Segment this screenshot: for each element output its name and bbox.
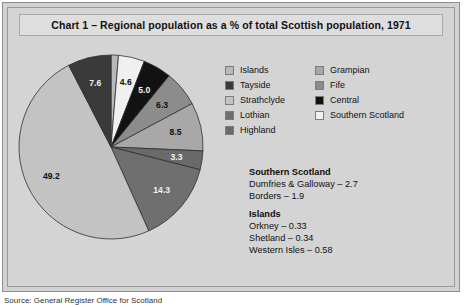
chart-screenshot: Chart 1 – Regional population as a % of … (0, 0, 464, 306)
pie-chart-svg: 1.34.65.06.38.53.314.349.27.6 (17, 49, 213, 245)
legend-item-central[interactable]: Central (315, 95, 449, 105)
pie-slice-value-label: 8.5 (170, 127, 182, 137)
legend-item-fife[interactable]: Fife (315, 80, 449, 90)
note-line: Borders – 1.9 (249, 190, 449, 202)
pie-slice-group (19, 55, 203, 239)
legend-item-strathclyde[interactable]: Strathclyde (225, 95, 311, 105)
pie-slice-value-label: 7.6 (89, 78, 101, 88)
pie-slice-value-label: 4.6 (120, 77, 132, 87)
legend-swatch-icon (315, 111, 324, 120)
note-line: Dumfries & Galloway – 2.7 (249, 178, 449, 190)
note-line: Western Isles – 0.58 (249, 244, 449, 256)
legend-swatch-icon (315, 96, 324, 105)
legend-item-label: Southern Scotland (330, 110, 404, 120)
legend-item-label: Highland (240, 125, 276, 135)
pie-slice-value-label: 3.3 (171, 152, 183, 162)
legend-item-label: Islands (240, 65, 269, 75)
legend-item-islands[interactable]: Islands (225, 65, 311, 75)
chart-notes: Southern ScotlandDumfries & Galloway – 2… (249, 167, 449, 263)
legend-swatch-icon (225, 126, 234, 135)
legend-swatch-icon (225, 66, 234, 75)
source-caption: Source: General Register Office for Scot… (4, 296, 162, 305)
pie-slice-value-label: 6.3 (156, 100, 168, 110)
pie-slice-value-label: 1.3 (109, 49, 121, 51)
legend-item-southern-scotland[interactable]: Southern Scotland (315, 110, 449, 120)
figure-frame: Chart 1 – Regional population as a % of … (2, 2, 460, 292)
chart-legend: IslandsGrampianTaysideFifeStrathclydeCen… (225, 65, 449, 135)
legend-item-highland[interactable]: Highland (225, 125, 311, 135)
note-heading: Islands (249, 209, 449, 219)
legend-item-label: Strathclyde (240, 95, 285, 105)
legend-item-label: Fife (330, 80, 345, 90)
pie-slice-value-label: 14.3 (153, 185, 170, 195)
legend-spacer (315, 125, 449, 135)
note-line: Shetland – 0.34 (249, 232, 449, 244)
pie-slice-value-label: 49.2 (43, 171, 60, 181)
legend-item-grampian[interactable]: Grampian (315, 65, 449, 75)
legend-item-label: Central (330, 95, 359, 105)
legend-swatch-icon (225, 111, 234, 120)
legend-swatch-icon (225, 96, 234, 105)
note-line: Orkney – 0.33 (249, 220, 449, 232)
pie-slice-value-label: 5.0 (138, 85, 150, 95)
legend-swatch-icon (315, 66, 324, 75)
legend-item-label: Grampian (330, 65, 370, 75)
legend-item-label: Lothian (240, 110, 270, 120)
page-title: Chart 1 – Regional population as a % of … (51, 19, 410, 31)
note-group: IslandsOrkney – 0.33Shetland – 0.34Weste… (249, 209, 449, 256)
legend-item-lothian[interactable]: Lothian (225, 110, 311, 120)
legend-swatch-icon (315, 81, 324, 90)
note-heading: Southern Scotland (249, 167, 449, 177)
legend-swatch-icon (225, 81, 234, 90)
note-group: Southern ScotlandDumfries & Galloway – 2… (249, 167, 449, 202)
legend-item-label: Tayside (240, 80, 271, 90)
legend-item-tayside[interactable]: Tayside (225, 80, 311, 90)
pie-chart: 1.34.65.06.38.53.314.349.27.6 (17, 49, 213, 245)
chart-title-bar: Chart 1 – Regional population as a % of … (19, 14, 443, 36)
